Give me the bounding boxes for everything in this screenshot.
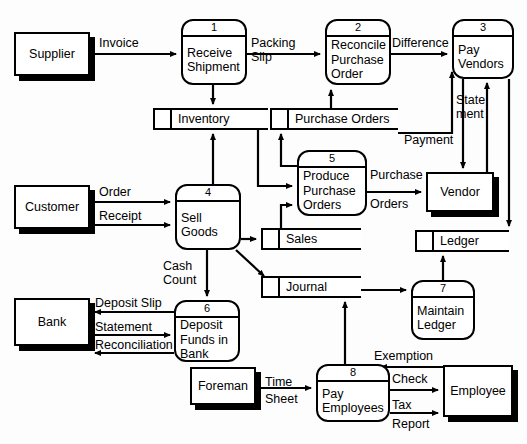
flow-label-slip: Slip (251, 50, 272, 64)
entity-employee[interactable]: Employee (443, 365, 513, 417)
process-8-line-1: Pay (322, 387, 388, 402)
process-7-number: 7 (413, 282, 473, 298)
process-receive-shipment[interactable]: 1 Receive Shipment (181, 19, 247, 85)
store-ledger-id (417, 232, 434, 250)
entity-foreman[interactable]: Foreman (190, 367, 256, 405)
flow-inventory-p5 (258, 130, 292, 186)
process-3-label: Pay Vendors (454, 37, 512, 77)
flow-po-p3 (398, 72, 452, 133)
flow-label-report: Report (392, 417, 430, 431)
process-produce-purchase-orders[interactable]: 5 Produce Purchase Orders (297, 150, 367, 216)
process-8-number: 8 (318, 366, 388, 382)
process-4-number: 4 (177, 186, 239, 202)
store-ledger-label: Ledger (434, 232, 509, 250)
process-5-line-3: Orders (303, 198, 365, 213)
process-7-line-2: Ledger (417, 318, 473, 333)
store-ledger[interactable]: Ledger (415, 230, 509, 252)
flow-label-time: Time (265, 375, 292, 389)
process-pay-employees[interactable]: 8 Pay Employees (316, 364, 390, 422)
entity-customer[interactable]: Customer (14, 185, 90, 229)
flow-label-count: Count (163, 273, 196, 287)
store-sales-id (263, 230, 280, 248)
process-deposit-funds-in-bank[interactable]: 6 Deposit Funds in Bank (174, 300, 240, 362)
store-inventory[interactable]: Inventory (153, 108, 268, 130)
entity-vendor-label: Vendor (440, 185, 480, 199)
process-6-number: 6 (176, 302, 238, 318)
store-purchase-orders-label: Purchase Orders (289, 110, 398, 128)
process-6-line-3: Bank (180, 347, 238, 362)
store-purchase-orders[interactable]: Purchase Orders (270, 108, 398, 130)
entity-customer-label: Customer (25, 200, 79, 214)
process-2-line-1: Reconcile (331, 38, 389, 53)
entity-supplier-label: Supplier (29, 47, 75, 61)
flow-label-tax: Tax (392, 398, 411, 412)
flow-label-payment: Payment (404, 133, 453, 147)
flow-label-statement-bank: Statement (95, 320, 152, 334)
process-3-number: 3 (454, 21, 512, 37)
process-4-label: Sell Goods (177, 202, 239, 248)
store-journal[interactable]: Journal (261, 276, 361, 298)
flow-label-order: Order (99, 185, 131, 199)
flow-sales-p5 (281, 205, 292, 228)
flow-label-orders: Orders (370, 197, 408, 211)
process-2-label: Reconcile Purchase Order (327, 37, 389, 83)
store-sales-label: Sales (280, 230, 361, 248)
process-2-number: 2 (327, 21, 389, 37)
flow-label-difference: Difference (392, 36, 449, 50)
process-5-label: Produce Purchase Orders (299, 168, 365, 214)
store-inventory-id (155, 110, 172, 128)
process-5-line-2: Purchase (303, 184, 365, 199)
process-5-number: 5 (299, 152, 365, 168)
process-4-line-1: Sell (181, 211, 239, 226)
process-6-label: Deposit Funds in Bank (176, 318, 238, 362)
flow-label-cash: Cash (163, 259, 192, 273)
process-5-line-1: Produce (303, 169, 365, 184)
process-7-line-1: Maintain (417, 304, 473, 319)
entity-supplier[interactable]: Supplier (14, 32, 90, 76)
flow-label-receipt: Receipt (99, 209, 141, 223)
process-7-label: Maintain Ledger (413, 298, 473, 338)
process-pay-vendors[interactable]: 3 Pay Vendors (452, 19, 514, 79)
process-3-line-2: Vendors (458, 57, 512, 72)
flow-label-invoice: Invoice (99, 36, 139, 50)
entity-foreman-label: Foreman (198, 379, 248, 393)
process-8-line-2: Employees (322, 401, 388, 416)
store-sales[interactable]: Sales (261, 228, 361, 250)
flow-label-purchase: Purchase (370, 168, 423, 182)
flow-label-check: Check (392, 372, 427, 386)
flow-label-statement-state: State (456, 93, 485, 107)
process-1-line-2: Shipment (187, 60, 245, 75)
store-journal-label: Journal (280, 278, 361, 296)
process-6-line-2: Funds in (180, 333, 238, 348)
process-8-label: Pay Employees (318, 382, 388, 420)
process-1-number: 1 (183, 21, 245, 37)
flow-p4-journal (236, 250, 264, 276)
flow-label-deposit-slip: Deposit Slip (95, 296, 162, 310)
process-1-label: Receive Shipment (183, 37, 245, 83)
process-reconcile-purchase-order[interactable]: 2 Reconcile Purchase Order (325, 19, 391, 85)
process-2-line-2: Purchase (331, 53, 389, 68)
process-2-line-3: Order (331, 67, 389, 82)
process-4-line-2: Goods (181, 225, 239, 240)
entity-bank-label: Bank (38, 315, 67, 329)
process-3-line-1: Pay (458, 43, 512, 58)
entity-bank[interactable]: Bank (14, 298, 90, 346)
entity-employee-label: Employee (450, 384, 506, 398)
store-inventory-label: Inventory (172, 110, 268, 128)
process-maintain-ledger[interactable]: 7 Maintain Ledger (411, 280, 475, 340)
flow-label-reconciliation: Reconciliation (95, 338, 173, 352)
flow-label-exemption: Exemption (374, 349, 433, 363)
flow-label-sheet: Sheet (265, 392, 298, 406)
process-6-line-1: Deposit (180, 318, 238, 333)
flow-label-packing: Packing (251, 36, 295, 50)
process-sell-goods[interactable]: 4 Sell Goods (175, 184, 241, 250)
dfd-canvas: Supplier Customer Bank Foreman Vendor Em… (0, 0, 527, 444)
store-journal-id (263, 278, 280, 296)
store-purchase-orders-id (272, 110, 289, 128)
entity-vendor[interactable]: Vendor (426, 172, 494, 212)
flow-label-statement-ment: ment (456, 107, 484, 121)
process-1-line-1: Receive (187, 46, 245, 61)
